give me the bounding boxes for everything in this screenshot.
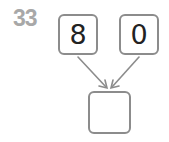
right-arrow-icon <box>112 57 139 87</box>
answer-box[interactable] <box>88 91 131 134</box>
arrows <box>0 0 169 142</box>
left-arrow-icon <box>78 57 106 87</box>
